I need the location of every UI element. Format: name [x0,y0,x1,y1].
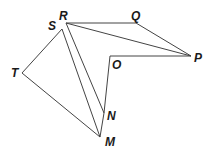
segment-RN [66,23,104,113]
vertex-label-N: N [107,109,116,123]
vertex-label-P: P [194,51,203,65]
vertex-label-T: T [11,66,20,80]
vertex-label-Q: Q [131,9,141,23]
vertex-label-O: O [112,58,122,72]
vertex-label-M: M [105,135,116,149]
segment-RP [66,23,191,56]
segment-QP [136,23,191,56]
vertex-label-S: S [48,19,56,33]
vertex-labels-group: RQPONMTS [11,9,203,149]
diagram-canvas: RQPONMTS [0,0,211,154]
vertex-label-R: R [59,9,68,23]
segment-NM [100,113,104,137]
segment-ON [104,56,110,113]
geometry-diagram: RQPONMTS [0,0,211,154]
segment-ST [22,29,62,73]
